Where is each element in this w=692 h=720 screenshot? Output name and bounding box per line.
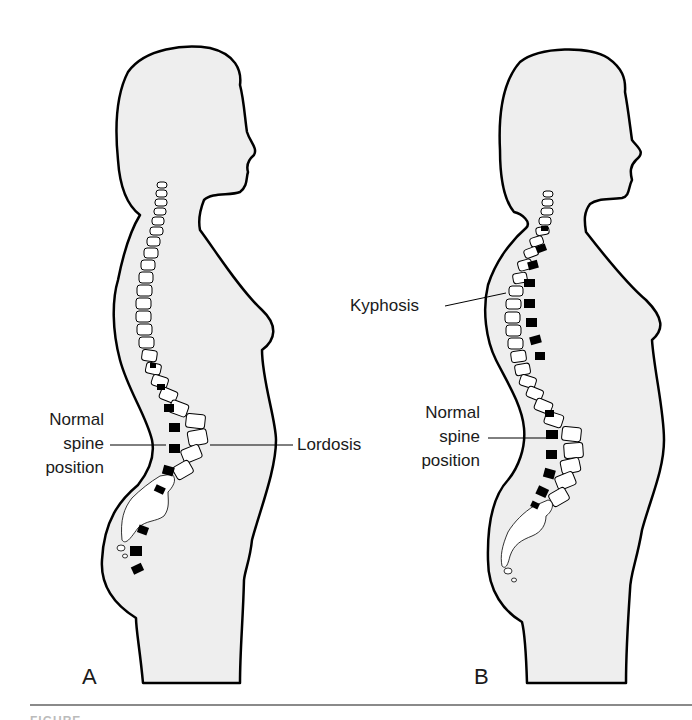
caption-divider bbox=[30, 704, 692, 706]
panel-letter-b: B bbox=[474, 664, 489, 690]
lordosis-label: Lordosis bbox=[297, 435, 361, 455]
panel-a bbox=[102, 47, 293, 683]
label-line: position bbox=[398, 451, 480, 471]
normal-spine-label-a: Normal spine position bbox=[22, 410, 104, 478]
label-line: spine bbox=[22, 434, 104, 454]
spine-curvature-diagram bbox=[0, 0, 692, 720]
kyphosis-label: Kyphosis bbox=[350, 296, 419, 316]
panel-b bbox=[445, 49, 664, 683]
label-line: Normal bbox=[398, 403, 480, 423]
label-line: Normal bbox=[22, 410, 104, 430]
panel-letter-a: A bbox=[82, 664, 97, 690]
silhouette-a bbox=[102, 47, 276, 683]
silhouette-b bbox=[485, 49, 664, 683]
label-line: spine bbox=[398, 427, 480, 447]
normal-spine-label-b: Normal spine position bbox=[398, 403, 480, 471]
figure-caption-partial: FIGURE bbox=[30, 714, 81, 720]
label-line: position bbox=[22, 458, 104, 478]
